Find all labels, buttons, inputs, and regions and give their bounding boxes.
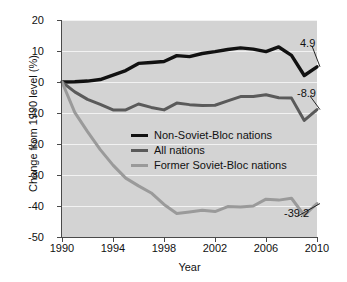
x-axis-spine [61, 237, 318, 238]
y-axis-spine [61, 20, 62, 238]
legend-label: All nations [154, 145, 205, 156]
series-line [62, 82, 317, 120]
y-axis-label: Change from 1990 level (%) [28, 29, 39, 219]
y-axis-tick [57, 175, 61, 176]
legend: Non-Soviet-Bloc nations All nations Form… [131, 128, 287, 173]
x-axis-tick-label: 2006 [244, 243, 288, 254]
y-axis-tick [57, 82, 61, 83]
y-axis-tick [57, 206, 61, 207]
annotation-value-middle: -8.9 [297, 88, 316, 99]
legend-line-dark-gray-icon [131, 149, 148, 152]
line-chart-figure: 20100-10-20-30-40-50 1990199419982002200… [0, 0, 347, 282]
legend-item-non-soviet-bloc-nations[interactable]: Non-Soviet-Bloc nations [131, 128, 287, 143]
legend-item-former-soviet-bloc-nations[interactable]: Former Soviet-Bloc nations [131, 158, 287, 173]
x-axis-tick-label: 1990 [40, 243, 84, 254]
legend-line-black-icon [131, 134, 148, 137]
annotation-leader-line [312, 46, 320, 67]
legend-label: Former Soviet-Bloc nations [154, 160, 287, 171]
y-axis-tick [57, 51, 61, 52]
legend-line-light-gray-icon [131, 164, 148, 167]
legend-item-all-nations[interactable]: All nations [131, 143, 287, 158]
y-axis-tick [57, 113, 61, 114]
annotation-value-top: 4.9 [300, 38, 315, 49]
x-axis-tick-label: 2010 [295, 243, 339, 254]
y-axis-tick-label: 20 [32, 15, 44, 26]
y-axis-tick-label: 0 [38, 77, 44, 88]
series-line [62, 47, 317, 82]
y-axis-tick [57, 144, 61, 145]
y-axis-tick [57, 237, 61, 238]
legend-label: Non-Soviet-Bloc nations [154, 130, 272, 141]
x-axis-tick-label: 1998 [142, 243, 186, 254]
annotation-value-bottom: -39.2 [284, 208, 309, 219]
x-axis-tick-label: 1994 [91, 243, 135, 254]
x-axis-tick-label: 2002 [193, 243, 237, 254]
x-axis-label: Year [62, 262, 317, 273]
y-axis-tick-label: -50 [28, 232, 44, 243]
y-axis-tick [57, 20, 61, 21]
